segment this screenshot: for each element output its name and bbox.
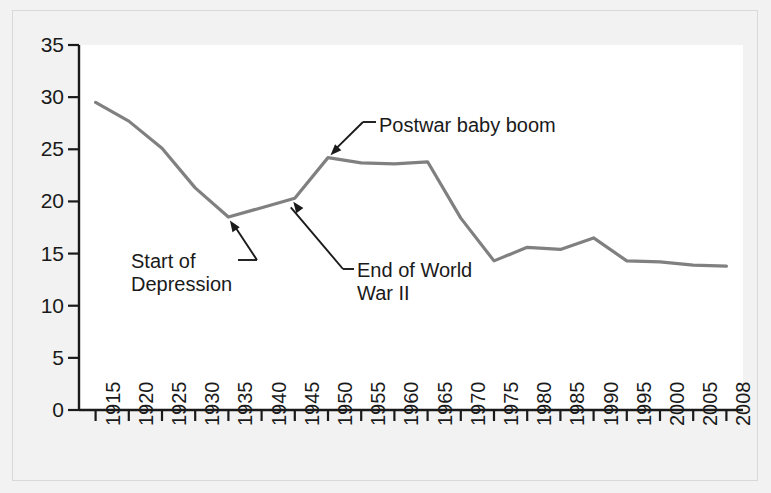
y-tick-label: 25 [16, 138, 64, 159]
annotation-leader-lines [230, 122, 376, 269]
x-tick-label: 2005 [700, 382, 720, 427]
y-tick-label: 15 [16, 243, 64, 264]
x-tick-label: 1975 [501, 382, 521, 427]
annotation-end-of-world-war-ii: End of World War II [357, 259, 472, 305]
axis-lines [79, 45, 743, 410]
annotation-ww2-line2: War II [357, 282, 472, 305]
y-tick-label: 10 [16, 295, 64, 316]
y-tick-label: 20 [16, 190, 64, 211]
x-tick-label: 2008 [733, 382, 753, 427]
annotation-ww2-line1: End of World [357, 259, 472, 282]
x-tick-label: 1985 [567, 382, 587, 427]
y-tick-label: 5 [16, 347, 64, 368]
x-tick-label: 1990 [601, 382, 621, 427]
y-tick-label: 0 [16, 399, 64, 420]
chart-figure: 05101520253035 1915192019251930193519401… [12, 10, 758, 481]
x-tick-label: 1940 [269, 382, 289, 427]
y-axis-ticks [68, 45, 79, 410]
x-tick-label: 2000 [667, 382, 687, 427]
leader-line-ww2 [291, 207, 343, 269]
x-tick-label: 1980 [534, 382, 554, 427]
x-tick-label: 1945 [302, 382, 322, 427]
x-tick-label: 1970 [468, 382, 488, 427]
annotation-postwar-baby-boom: Postwar baby boom [379, 114, 556, 137]
x-tick-label: 1925 [169, 382, 189, 427]
x-tick-label: 1920 [136, 382, 156, 427]
annotation-depression-line1: Start of [131, 250, 232, 273]
x-tick-label: 1965 [435, 382, 455, 427]
x-tick-label: 1955 [368, 382, 388, 427]
x-tick-label: 1950 [335, 382, 355, 427]
annotation-start-of-depression: Start of Depression [131, 250, 232, 296]
y-tick-label: 35 [16, 34, 64, 55]
leader-line-babyboom [335, 122, 363, 150]
annotation-depression-line2: Depression [131, 273, 232, 296]
x-tick-label: 1935 [235, 382, 255, 427]
x-tick-label: 1995 [634, 382, 654, 427]
x-tick-label: 1930 [202, 382, 222, 427]
x-tick-label: 1960 [401, 382, 421, 427]
annotation-babyboom-line1: Postwar baby boom [379, 114, 556, 137]
leader-line-depression [234, 225, 257, 260]
x-tick-label: 1915 [103, 382, 123, 427]
y-tick-label: 30 [16, 86, 64, 107]
